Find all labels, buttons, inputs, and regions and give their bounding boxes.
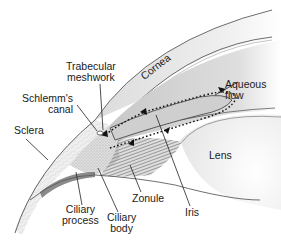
label-line: canal bbox=[22, 104, 73, 115]
label-aqueous-flow: Aqueous flow bbox=[225, 79, 266, 101]
label-line: meshwork bbox=[66, 72, 116, 83]
label-line: body bbox=[107, 223, 136, 234]
label-ciliary-process: Ciliary process bbox=[62, 204, 99, 226]
label-zonule: Zonule bbox=[132, 193, 164, 204]
label-line: flow bbox=[225, 90, 266, 101]
label-lens: Lens bbox=[209, 150, 232, 161]
label-ciliary-body: Ciliary body bbox=[107, 212, 136, 234]
label-iris: Iris bbox=[185, 207, 199, 218]
label-trabecular-meshwork: Trabecular meshwork bbox=[66, 61, 116, 83]
diagram-artwork bbox=[0, 0, 281, 241]
eye-anatomy-diagram: Trabecular meshwork Schlemm's canal Scle… bbox=[0, 0, 281, 241]
label-sclera: Sclera bbox=[14, 125, 44, 136]
lens-shape bbox=[180, 114, 281, 241]
label-line: process bbox=[62, 215, 99, 226]
label-schlemms-canal: Schlemm's canal bbox=[22, 93, 73, 115]
schlemms-canal-shape bbox=[97, 131, 103, 135]
